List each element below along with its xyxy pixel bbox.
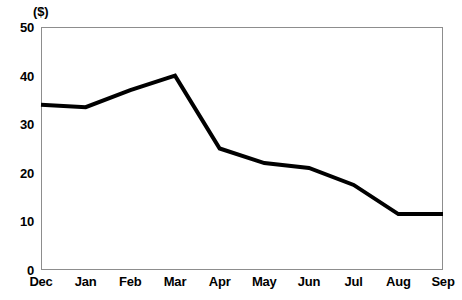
x-tick-label: Jul	[345, 274, 363, 289]
x-tick-label: Feb	[119, 274, 142, 289]
x-tick-label: May	[252, 274, 277, 289]
x-tick-label: Jun	[298, 274, 321, 289]
x-tick-label: Apr	[209, 274, 231, 289]
data-series-line	[41, 76, 443, 215]
x-tick-label: Jan	[75, 274, 97, 289]
y-tick-label: 40	[2, 68, 34, 83]
y-tick-label: 10	[2, 214, 34, 229]
y-tick-label: 50	[2, 20, 34, 35]
x-tick-label: Aug	[386, 274, 411, 289]
y-tick-label: 30	[2, 117, 34, 132]
chart-canvas	[0, 0, 462, 300]
x-tick-label: Sep	[431, 274, 454, 289]
x-tick-label: Dec	[29, 274, 52, 289]
line-chart: ($) 01020304050 DecJanFebMarAprMayJunJul…	[0, 0, 462, 300]
x-tick-label: Mar	[164, 274, 187, 289]
y-tick-label: 20	[2, 165, 34, 180]
